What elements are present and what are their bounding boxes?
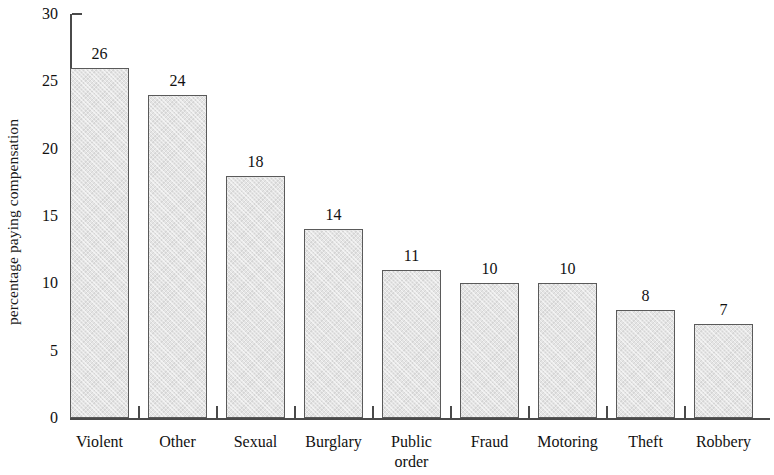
bar-value-label: 8 <box>616 288 675 304</box>
x-axis-category-label-line: order <box>373 452 450 472</box>
x-axis-tick <box>372 406 374 418</box>
x-axis-category-label: Theft <box>607 432 684 452</box>
x-axis-tick <box>138 406 140 418</box>
x-axis-category-label-line: Sexual <box>217 432 294 452</box>
x-axis-category-label-line: Burglary <box>295 432 372 452</box>
y-axis-tick-label: 30 <box>18 6 58 22</box>
bar-value-label: 26 <box>70 46 129 62</box>
bar-value-label: 14 <box>304 207 363 223</box>
y-axis-tick-label: 0 <box>18 410 58 426</box>
x-axis-category-label-line: Robbery <box>685 432 762 452</box>
y-axis-tick-label: 5 <box>18 343 58 359</box>
x-axis-category-label: Sexual <box>217 432 294 452</box>
x-axis-tick <box>294 406 296 418</box>
x-axis-category-label: Robbery <box>685 432 762 452</box>
x-axis-tick <box>606 406 608 418</box>
x-axis-tick <box>216 406 218 418</box>
x-axis-category-label: Burglary <box>295 432 372 452</box>
y-axis-tick-label: 15 <box>18 208 58 224</box>
bar <box>538 283 597 418</box>
x-axis-tick <box>450 406 452 418</box>
y-axis-tick <box>72 13 82 15</box>
x-axis-tick <box>528 406 530 418</box>
x-axis-category-label: Publicorder <box>373 432 450 472</box>
plot-area: 2624181411101087 <box>70 14 770 420</box>
x-axis-category-label: Violent <box>61 432 138 452</box>
bar <box>70 68 129 418</box>
x-axis-tick <box>684 406 686 418</box>
bar-value-label: 7 <box>694 302 753 318</box>
bar-value-label: 10 <box>460 261 519 277</box>
bar-chart: percentage paying compensation 262418141… <box>0 0 774 475</box>
bar <box>226 176 285 418</box>
x-axis-category-label-line: Other <box>139 432 216 452</box>
x-axis-line <box>70 418 770 420</box>
x-axis-category-label-line: Theft <box>607 432 684 452</box>
bar-value-label: 18 <box>226 154 285 170</box>
bar <box>460 283 519 418</box>
y-axis-tick-label: 20 <box>18 141 58 157</box>
x-axis-category-label-line: Violent <box>61 432 138 452</box>
bar-value-label: 10 <box>538 261 597 277</box>
bar <box>616 310 675 418</box>
bar-value-label: 24 <box>148 73 207 89</box>
y-axis-tick-label: 10 <box>18 275 58 291</box>
x-axis-category-label: Fraud <box>451 432 528 452</box>
x-axis-category-label-line: Fraud <box>451 432 528 452</box>
x-axis-category-label: Other <box>139 432 216 452</box>
x-axis-category-label-line: Motoring <box>529 432 606 452</box>
bar-value-label: 11 <box>382 248 441 264</box>
x-axis-category-label: Motoring <box>529 432 606 452</box>
y-axis-tick-label: 25 <box>18 73 58 89</box>
bar <box>694 324 753 418</box>
x-axis-category-label-line: Public <box>373 432 450 452</box>
bar <box>304 229 363 418</box>
bar <box>148 95 207 418</box>
bar <box>382 270 441 418</box>
